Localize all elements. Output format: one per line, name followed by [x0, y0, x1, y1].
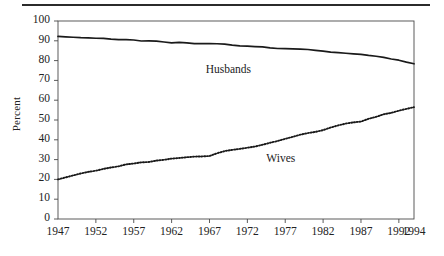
y-tick-label: 50	[18, 112, 50, 124]
series-line-husbands	[58, 36, 414, 63]
y-tick-label: 70	[18, 72, 50, 84]
x-tick-label: 1982	[307, 225, 339, 237]
y-tick-label: 40	[18, 132, 50, 144]
y-tick-label: 0	[18, 211, 50, 223]
y-tick-label: 20	[18, 171, 50, 183]
series-line-wives	[58, 107, 414, 179]
x-tick-label: 1952	[80, 225, 112, 237]
series-label-wives: Wives	[266, 152, 295, 164]
series-label-husbands: Husbands	[206, 63, 251, 75]
x-tick-label: 1967	[193, 225, 225, 237]
plot-frame	[58, 21, 414, 219]
x-tick-label: 1947	[42, 225, 74, 237]
chart-canvas: Percent 01020304050607080901001947195219…	[0, 0, 444, 256]
x-tick-label: 1987	[345, 225, 377, 237]
y-tick-label: 10	[18, 191, 50, 203]
chart-figure: Percent 01020304050607080901001947195219…	[0, 0, 444, 256]
y-tick-label: 100	[18, 13, 50, 25]
x-tick-label: 1977	[269, 225, 301, 237]
y-tick-label: 80	[18, 53, 50, 65]
x-tick-label: 1994	[398, 225, 430, 237]
x-tick-label: 1957	[118, 225, 150, 237]
y-tick-label: 30	[18, 152, 50, 164]
y-tick-label: 60	[18, 92, 50, 104]
plot-svg	[0, 0, 444, 256]
x-tick-label: 1972	[231, 225, 263, 237]
x-tick-label: 1962	[156, 225, 188, 237]
y-tick-label: 90	[18, 33, 50, 45]
